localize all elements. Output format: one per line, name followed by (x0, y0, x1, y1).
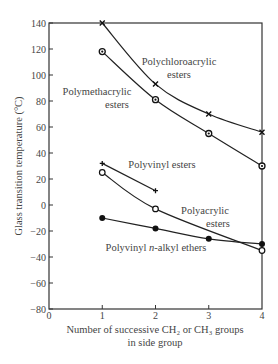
y-tick-label: 20 (36, 174, 46, 185)
chart: 140120100806040200−20−40−60−8001234Numbe… (0, 0, 278, 364)
series-label: Polychloroacrylic (142, 56, 217, 67)
series-label: Polyvinyl esters (128, 159, 195, 170)
y-tick-label: 120 (31, 44, 46, 55)
y-tick-label: 40 (36, 148, 46, 159)
x-tick-label: 4 (260, 310, 265, 321)
y-tick-label: 60 (36, 122, 46, 133)
filled-circle-marker-icon (259, 241, 265, 247)
x-tick-label: 3 (206, 310, 211, 321)
y-axis-label: Glass transition temperature (°C) (13, 96, 25, 236)
x-marker-icon (153, 82, 158, 87)
series-polyvinyl-esters: Polyvinyl esters (100, 159, 196, 193)
series-polyacrylic-esters: Polyacrylicesters (99, 170, 264, 254)
filled-circle-marker-icon (206, 236, 212, 242)
series-label: esters (105, 99, 129, 110)
series-label: esters (167, 69, 191, 80)
circle-dot-center (208, 132, 210, 134)
open-circle-marker-icon (153, 206, 159, 212)
filled-circle-marker-icon (153, 225, 159, 231)
y-tick-label: −80 (30, 304, 46, 315)
x-tick-label: 0 (47, 310, 52, 321)
y-tick-label: 80 (36, 96, 46, 107)
x-tick-label: 1 (100, 310, 105, 321)
x-marker-icon (206, 112, 211, 117)
y-tick-label: 100 (31, 70, 46, 81)
series-label: esters (206, 218, 230, 229)
y-tick-label: 140 (31, 18, 46, 29)
open-circle-marker-icon (99, 170, 105, 176)
circle-dot-center (261, 165, 263, 167)
circle-dot-center (154, 99, 156, 101)
series-label: Polyvinyl n-alkyl ethers (106, 242, 207, 253)
filled-circle-marker-icon (99, 215, 105, 221)
plus-marker-icon (153, 188, 158, 193)
y-tick-label: −60 (30, 278, 46, 289)
plus-marker-icon (100, 161, 105, 166)
y-tick-label: −20 (30, 226, 46, 237)
circle-dot-center (101, 51, 103, 53)
y-tick-label: 0 (41, 200, 46, 211)
y-tick-label: −40 (30, 252, 46, 263)
series-label: Polymethacrylic (63, 86, 132, 97)
series-line (102, 218, 262, 244)
x-tick-label: 2 (153, 310, 158, 321)
series-label: Polyacrylic (181, 205, 229, 216)
open-circle-marker-icon (259, 248, 265, 254)
x-axis-label: in side group (128, 337, 183, 348)
x-axis-label: Number of successive CH₂ or CH₃ groups (66, 324, 243, 335)
